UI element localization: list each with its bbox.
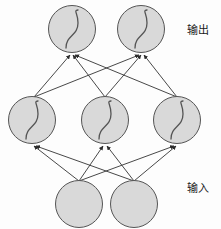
- edge-in1-hid3: [79, 146, 174, 181]
- edge-group-input-hidden: [34, 146, 176, 181]
- edge-in2-hid1: [36, 146, 134, 181]
- node-hidden-1[interactable]: [9, 97, 56, 144]
- edge-group-hidden-output: [34, 55, 177, 97]
- edge-hid3-out2: [144, 55, 177, 97]
- node-output-1[interactable]: [49, 6, 96, 53]
- edge-hid1-out1: [34, 55, 70, 97]
- node-hidden-1-body[interactable]: [9, 97, 56, 144]
- hidden-layer-nodes: [9, 97, 201, 144]
- input-layer-label: 输入: [187, 182, 209, 195]
- edge-hid3-out1: [75, 55, 177, 97]
- edge-in2-hid3: [134, 146, 176, 181]
- node-hidden-3-body[interactable]: [154, 97, 201, 144]
- node-output-2[interactable]: [118, 6, 165, 53]
- edge-hid2-out1: [73, 55, 105, 97]
- edge-in1-hid1: [34, 146, 79, 181]
- edge-in1-hid2: [79, 146, 103, 181]
- node-hidden-3[interactable]: [154, 97, 201, 144]
- node-hidden-2[interactable]: [82, 97, 129, 144]
- node-input-2[interactable]: [111, 181, 158, 228]
- node-input-1[interactable]: [56, 181, 103, 228]
- node-hidden-2-body[interactable]: [82, 97, 129, 144]
- node-output-1-body[interactable]: [49, 6, 96, 53]
- output-layer-nodes: [49, 6, 165, 53]
- neural-network-diagram: 输出 输入: [0, 0, 221, 229]
- output-layer-label: 输出: [187, 24, 209, 37]
- node-output-2-body[interactable]: [118, 6, 165, 53]
- input-layer-nodes: [56, 181, 158, 228]
